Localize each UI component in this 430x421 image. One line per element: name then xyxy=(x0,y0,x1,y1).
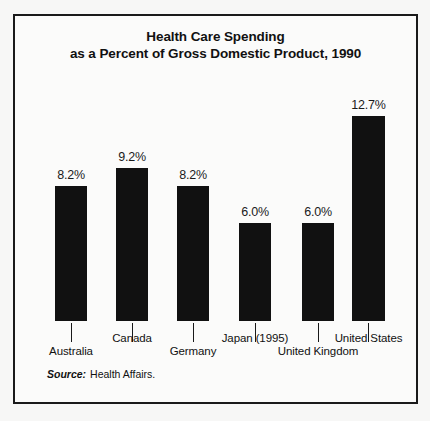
bar-group-united-kingdom: 6.0% United Kingdom xyxy=(302,16,334,406)
bar-label-japan: Japan (1995) xyxy=(222,332,289,344)
bar-rect-japan xyxy=(239,223,271,321)
plot-area: 8.2% Australia 9.2% Canada 8.2% Germany … xyxy=(15,16,420,406)
source-note: Source:Health Affairs. xyxy=(47,368,155,380)
bar-rect-united-kingdom xyxy=(302,223,334,321)
bar-value-united-kingdom: 6.0% xyxy=(304,205,332,219)
bar-value-germany: 8.2% xyxy=(179,168,207,182)
bar-rect-australia xyxy=(55,186,87,321)
bar-tick-germany xyxy=(193,323,194,342)
bar-label-germany: Germany xyxy=(170,345,217,357)
bar-group-australia: 8.2% Australia xyxy=(55,16,87,406)
chart-frame: Health Care Spending as a Percent of Gro… xyxy=(13,14,418,404)
bar-group-united-states: 12.7% United States xyxy=(352,16,385,406)
source-note-label: Source: xyxy=(47,368,86,380)
bar-rect-united-states xyxy=(352,116,385,321)
bar-tick-united-kingdom xyxy=(318,323,319,342)
source-note-text: Health Affairs. xyxy=(90,368,155,380)
bar-value-australia: 8.2% xyxy=(57,168,85,182)
bar-label-united-states: United States xyxy=(335,332,403,344)
bar-label-united-kingdom: United Kingdom xyxy=(278,345,358,357)
bar-label-australia: Australia xyxy=(49,345,93,357)
bar-value-japan: 6.0% xyxy=(241,205,269,219)
bar-tick-australia xyxy=(71,323,72,342)
bar-rect-canada xyxy=(116,168,148,321)
bar-value-united-states: 12.7% xyxy=(351,98,385,112)
bar-group-germany: 8.2% Germany xyxy=(177,16,209,406)
bar-group-japan: 6.0% Japan (1995) xyxy=(239,16,271,406)
bar-value-canada: 9.2% xyxy=(118,150,146,164)
bar-group-canada: 9.2% Canada xyxy=(116,16,148,406)
bar-label-canada: Canada xyxy=(112,332,152,344)
bar-rect-germany xyxy=(177,186,209,321)
